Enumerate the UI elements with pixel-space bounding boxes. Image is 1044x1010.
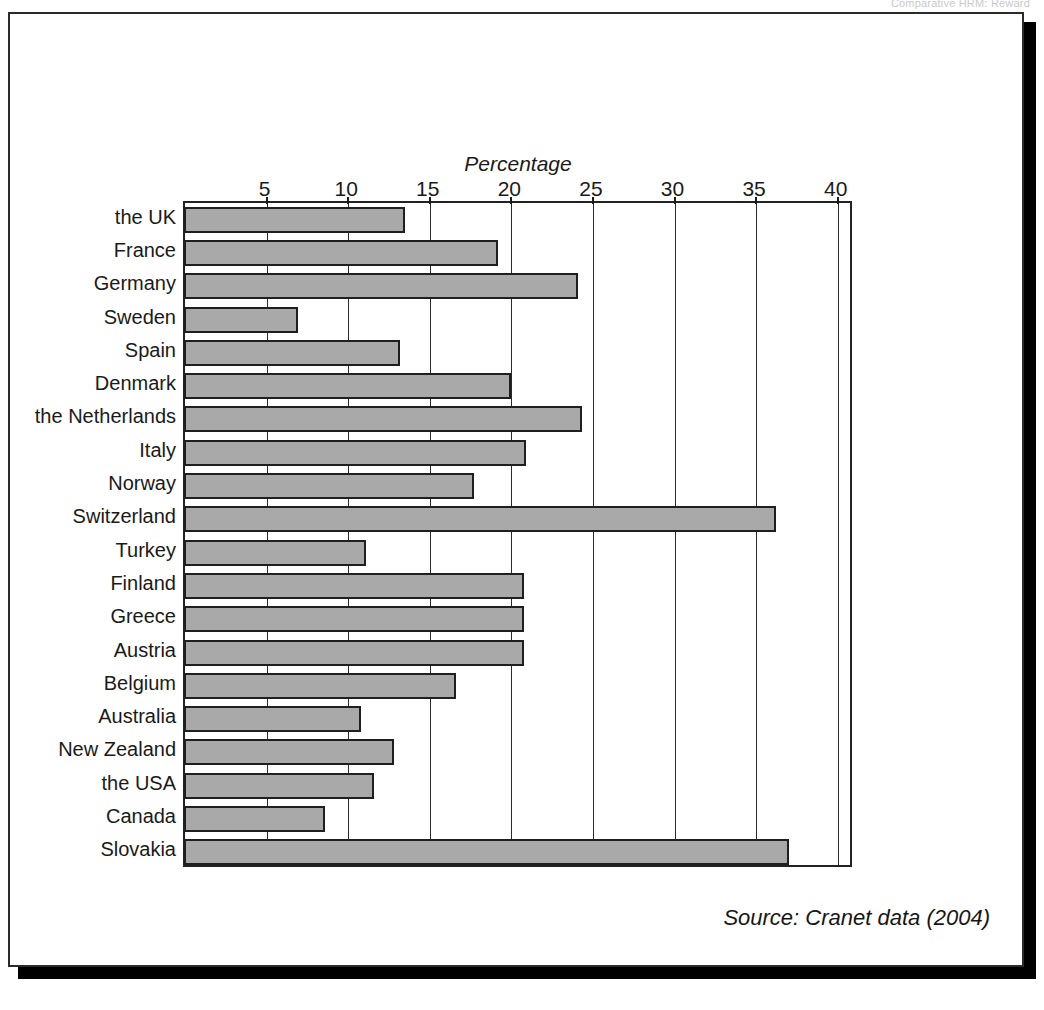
bar-row [185, 836, 850, 869]
bar[interactable] [184, 273, 578, 299]
bar[interactable] [184, 406, 582, 432]
y-axis-label: Australia [10, 705, 176, 728]
bar[interactable] [184, 506, 776, 532]
y-axis-label: Greece [10, 605, 176, 628]
y-axis-label: Belgium [10, 672, 176, 695]
bar-series [185, 203, 850, 865]
bar-row [185, 336, 850, 369]
bar[interactable] [184, 240, 498, 266]
bar[interactable] [184, 839, 789, 865]
x-axis-tick-labels: 510152025303540 [10, 177, 1026, 201]
bar-row [185, 503, 850, 536]
source-note: Source: Cranet data (2004) [723, 905, 990, 931]
bar-row [185, 669, 850, 702]
bar-row [185, 370, 850, 403]
y-axis-label: the UK [10, 206, 176, 229]
bar-row [185, 736, 850, 769]
bar[interactable] [184, 606, 524, 632]
bar-row [185, 569, 850, 602]
bar-row [185, 603, 850, 636]
x-tick-label: 25 [579, 177, 602, 201]
y-axis-label: the Netherlands [10, 405, 176, 428]
y-axis-category-labels: the UKFranceGermanySwedenSpainDenmarkthe… [10, 201, 176, 867]
bar[interactable] [184, 540, 366, 566]
x-tick-label: 15 [416, 177, 439, 201]
bar[interactable] [184, 340, 400, 366]
bar[interactable] [184, 640, 524, 666]
bar-row [185, 270, 850, 303]
bar[interactable] [184, 773, 374, 799]
bar[interactable] [184, 440, 526, 466]
bar[interactable] [184, 706, 361, 732]
x-tick-label: 40 [824, 177, 847, 201]
page-running-header: Comparative HRM: Reward [891, 0, 1030, 9]
y-axis-label: New Zealand [10, 738, 176, 761]
bar-row [185, 436, 850, 469]
bar-row [185, 403, 850, 436]
plot-area [183, 201, 852, 867]
y-axis-label: Sweden [10, 306, 176, 329]
y-axis-label: Switzerland [10, 505, 176, 528]
bar[interactable] [184, 739, 394, 765]
y-axis-label: Austria [10, 639, 176, 662]
y-axis-label: the USA [10, 772, 176, 795]
y-axis-label: Denmark [10, 372, 176, 395]
x-tick-label: 20 [498, 177, 521, 201]
bar[interactable] [184, 473, 474, 499]
bar[interactable] [184, 673, 456, 699]
bar-row [185, 636, 850, 669]
bar-row [185, 536, 850, 569]
x-tick-label: 35 [742, 177, 765, 201]
bar-row [185, 703, 850, 736]
bar[interactable] [184, 806, 325, 832]
y-axis-label: France [10, 239, 176, 262]
y-axis-label: Germany [10, 272, 176, 295]
y-axis-label: Italy [10, 439, 176, 462]
bar[interactable] [184, 307, 298, 333]
bar-row [185, 303, 850, 336]
y-axis-label: Norway [10, 472, 176, 495]
x-axis-title: Percentage [183, 152, 853, 176]
bar-row [185, 769, 850, 802]
bar[interactable] [184, 207, 405, 233]
bar-row [185, 203, 850, 236]
bar-chart: Percentage 510152025303540 the UKFranceG… [10, 14, 1026, 969]
bar-row [185, 236, 850, 269]
figure-frame: Percentage 510152025303540 the UKFranceG… [8, 12, 1024, 967]
y-axis-label: Slovakia [10, 838, 176, 861]
y-axis-label: Canada [10, 805, 176, 828]
bar-row [185, 802, 850, 835]
y-axis-label: Spain [10, 339, 176, 362]
bar[interactable] [184, 373, 511, 399]
bar-row [185, 469, 850, 502]
y-axis-label: Turkey [10, 539, 176, 562]
x-tick-label: 10 [334, 177, 357, 201]
x-tick-label: 5 [259, 177, 271, 201]
bar[interactable] [184, 573, 524, 599]
y-axis-label: Finland [10, 572, 176, 595]
x-tick-label: 30 [661, 177, 684, 201]
